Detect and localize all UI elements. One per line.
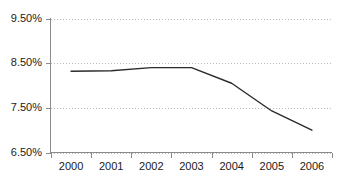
gridlines: [51, 20, 332, 154]
x-tick-label: 2004: [219, 160, 243, 172]
y-tick-label: 6.50%: [11, 146, 42, 158]
y-axis-labels: 9.50%8.50%7.50%6.50%: [11, 12, 42, 158]
x-tick-label: 2006: [300, 160, 324, 172]
x-tick-label: 2002: [139, 160, 163, 172]
x-tick-label: 2003: [179, 160, 203, 172]
y-tick-label: 9.50%: [11, 12, 42, 24]
x-tick-label: 2005: [260, 160, 284, 172]
chart-canvas: 9.50%8.50%7.50%6.50% 2000200120022003200…: [0, 0, 348, 184]
line-chart: 9.50%8.50%7.50%6.50% 2000200120022003200…: [0, 0, 348, 184]
data-series-line: [71, 68, 312, 131]
x-tick-label: 2000: [59, 160, 83, 172]
x-tick-label: 2001: [99, 160, 123, 172]
y-tick-label: 8.50%: [11, 56, 42, 68]
x-axis-labels: 2000200120022003200420052006: [59, 160, 324, 172]
y-tick-label: 7.50%: [11, 101, 42, 113]
